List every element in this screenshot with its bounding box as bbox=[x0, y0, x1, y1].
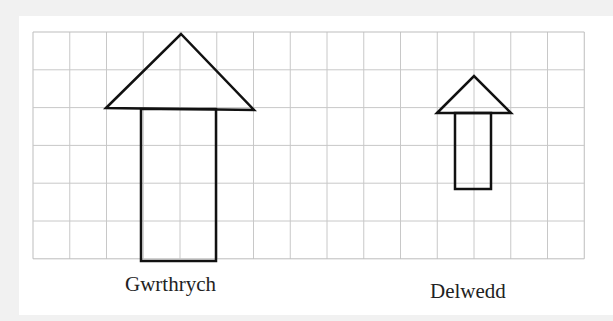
arrow-shaft bbox=[455, 113, 491, 189]
image-label: Delwedd bbox=[430, 281, 506, 302]
shapes-layer bbox=[106, 34, 511, 261]
object-label: Gwrthrych bbox=[125, 274, 216, 295]
square-grid bbox=[33, 32, 584, 259]
diagram-canvas bbox=[0, 0, 613, 321]
arrow-shaft bbox=[141, 109, 216, 261]
